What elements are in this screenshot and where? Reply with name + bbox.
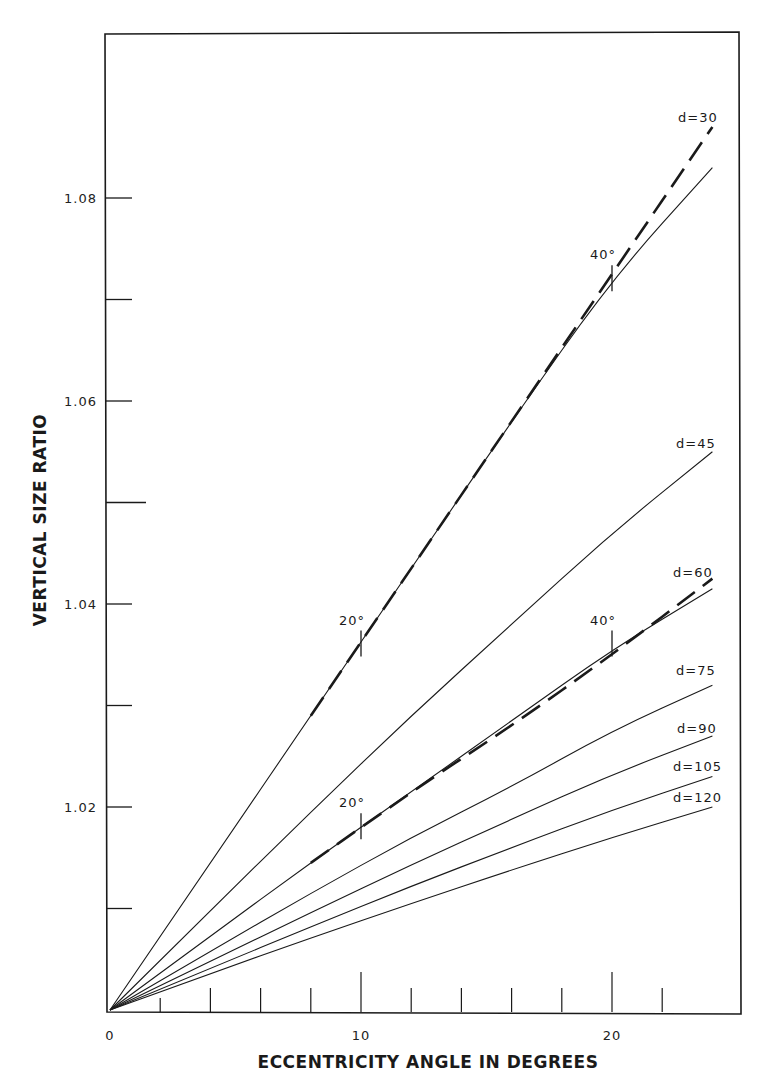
x-tick-label: 20 [603, 1028, 622, 1043]
series-label-d45: d=45 [676, 436, 716, 451]
series-label-d30: d=30 [678, 110, 718, 125]
series-labels: d=30d=45d=60d=75d=90d=105d=120 [673, 110, 722, 805]
angle-marker-label: 20° [339, 795, 365, 810]
series-line-d-75 [110, 685, 712, 1010]
series-label-d90: d=90 [677, 721, 717, 736]
angle-marker-label: 20° [339, 613, 365, 628]
y-axis-title: VERTICAL SIZE RATIO [30, 414, 50, 627]
angle-marker-label: 40° [590, 247, 616, 262]
series-line-d-120 [110, 807, 712, 1010]
x-tick-label: 10 [352, 1028, 371, 1043]
chart: 1.021.041.061.0801020 20°40°20°40° d=30d… [0, 0, 759, 1085]
series-line-d-30 [110, 168, 712, 1010]
series-label-d120: d=120 [673, 790, 722, 805]
angle-annotations: 20°40°20°40° [339, 247, 616, 839]
series-line-d-30-dashed [311, 127, 713, 716]
series-line-d-45 [110, 452, 712, 1010]
plot-frame [105, 32, 741, 1014]
x-tick-label: 0 [105, 1028, 114, 1043]
axis-ticks [106, 198, 662, 1012]
y-tick-label: 1.08 [64, 191, 97, 206]
series-label-d105: d=105 [673, 759, 722, 774]
y-tick-label: 1.02 [64, 800, 97, 815]
series-label-d75: d=75 [676, 663, 716, 678]
plot-border [105, 32, 741, 1014]
series-line-d-90 [110, 736, 712, 1010]
series-line-d-60 [110, 589, 712, 1010]
y-tick-label: 1.06 [64, 394, 97, 409]
data-series [110, 127, 712, 1010]
y-tick-label: 1.04 [64, 597, 97, 612]
series-line-d-105 [110, 777, 712, 1010]
series-label-d60: d=60 [673, 565, 713, 580]
angle-marker-label: 40° [590, 613, 616, 628]
x-axis-title: ECCENTRICITY ANGLE IN DEGREES [258, 1052, 599, 1072]
